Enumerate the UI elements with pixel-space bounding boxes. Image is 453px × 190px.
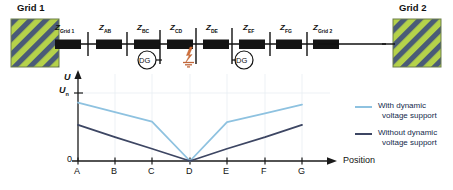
x-axis-arrow <box>327 157 337 165</box>
figure-root: Grid 1 Grid 2 ZGrid 1 ZAB ZBC ZCD ZDE ZE… <box>0 0 453 190</box>
y-axis-zero-label: 0 <box>67 154 72 164</box>
x-axis-label: Position <box>343 155 375 165</box>
legend-item-without-support-line2: voltage support <box>378 138 437 148</box>
y-axis-label: U <box>64 72 71 82</box>
x-tick-label-f: F <box>261 166 267 176</box>
y-axis-arrow <box>74 70 81 79</box>
legend-item-with-support: With dynamic voltage support <box>378 101 437 120</box>
legend-item-without-support: Without dynamic voltage support <box>378 128 437 147</box>
x-tick-label-a: A <box>74 166 80 176</box>
x-tick-label-e: E <box>223 166 229 176</box>
y-axis-nominal-label: Un <box>59 85 69 97</box>
legend-item-with-support-line2: voltage support <box>378 111 437 121</box>
x-tick-label-c: C <box>148 166 155 176</box>
legend-item-with-support-line1: With dynamic <box>378 101 437 111</box>
x-tick-label-g: G <box>298 166 305 176</box>
legend-item-without-support-line1: Without dynamic <box>378 128 437 138</box>
x-tick-label-d: D <box>186 166 193 176</box>
x-tick-label-b: B <box>111 166 117 176</box>
chart-gridlines <box>78 74 330 161</box>
